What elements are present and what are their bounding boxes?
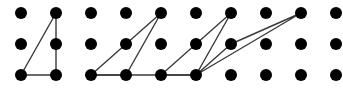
grid-dot: [155, 7, 167, 19]
grid-dot: [85, 69, 97, 81]
grid-dot: [15, 69, 27, 81]
grid-dot: [190, 38, 202, 50]
grid-dot: [50, 7, 62, 19]
grid-dot: [120, 38, 132, 50]
grid-dot: [85, 38, 97, 50]
triangle-4: [196, 13, 301, 75]
grid-dot: [190, 7, 202, 19]
grid-dot: [260, 69, 272, 81]
grid-dot: [330, 69, 342, 81]
grid-dot: [120, 7, 132, 19]
grid-dot: [260, 7, 272, 19]
grid-dot: [15, 7, 27, 19]
grid-dot: [225, 7, 237, 19]
grid-dot: [260, 38, 272, 50]
grid-dot: [120, 69, 132, 81]
dot-lattice-figure: [0, 0, 343, 88]
grid-dot: [295, 69, 307, 81]
grid-dot: [190, 69, 202, 81]
grid-dot: [155, 38, 167, 50]
lattice-canvas: [0, 0, 343, 88]
grid-dot: [330, 7, 342, 19]
grid-dot: [50, 38, 62, 50]
grid-dot: [155, 69, 167, 81]
grid-dot: [330, 38, 342, 50]
grid-dot: [295, 38, 307, 50]
grid-dot: [15, 38, 27, 50]
grid-dot: [295, 7, 307, 19]
grid-dot: [225, 38, 237, 50]
grid-dot: [50, 69, 62, 81]
grid-dot: [85, 7, 97, 19]
grid-dot: [225, 69, 237, 81]
